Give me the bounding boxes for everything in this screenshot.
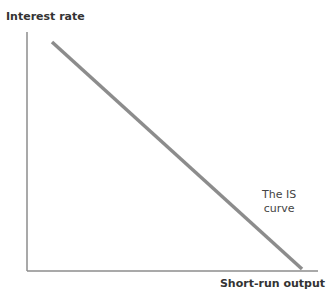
y-axis-label: Interest rate (6, 10, 85, 23)
chart-plot-area (0, 0, 331, 302)
is-curve-chart: Interest rate Short-run output The IS cu… (0, 0, 331, 302)
curve-annotation-line2: curve (262, 202, 296, 216)
curve-annotation-line1: The IS (262, 188, 296, 202)
is-curve-line (52, 42, 302, 269)
x-axis-label: Short-run output (220, 277, 325, 290)
curve-annotation: The IS curve (262, 188, 296, 216)
